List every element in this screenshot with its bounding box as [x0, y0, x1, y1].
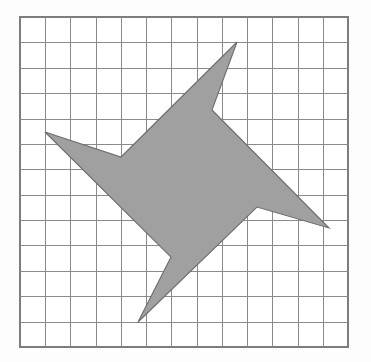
star-grid-figure [0, 0, 371, 362]
figure-canvas [0, 0, 371, 362]
